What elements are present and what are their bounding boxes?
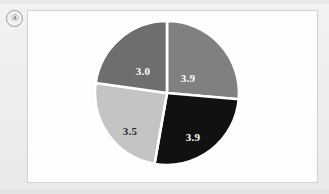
pie-slice-label: 3.9 bbox=[181, 72, 196, 84]
pie-chart: 3.93.93.53.0 bbox=[28, 11, 317, 182]
pie-slice-label: 3.5 bbox=[123, 125, 138, 137]
figure-number-marker: ④ bbox=[6, 10, 23, 27]
scan-edge-bottom bbox=[0, 189, 329, 194]
pie-slice[interactable] bbox=[155, 93, 239, 165]
pie-slice[interactable] bbox=[96, 21, 167, 93]
pie-canvas: 3.93.93.53.0 bbox=[92, 17, 242, 173]
pie-slice[interactable] bbox=[167, 21, 239, 99]
figure-frame: 3.93.93.53.0 bbox=[27, 10, 318, 183]
pie-slice-label: 3.0 bbox=[136, 65, 151, 77]
scanned-page: ④ 3.93.93.53.0 bbox=[0, 0, 329, 194]
scan-edge-top bbox=[0, 0, 329, 4]
pie-svg: 3.93.93.53.0 bbox=[92, 17, 242, 173]
pie-slice[interactable] bbox=[95, 83, 167, 164]
pie-slice-group bbox=[95, 21, 239, 165]
pie-slice-label: 3.9 bbox=[186, 131, 201, 143]
